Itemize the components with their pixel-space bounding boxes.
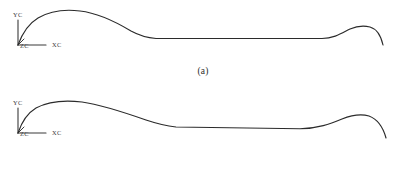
panel-b-plot: YC XC ZC bbox=[0, 87, 406, 175]
panel-a-x-axis-label: XC bbox=[52, 41, 61, 48]
panel-b-z-axis-label: ZC bbox=[20, 130, 29, 137]
panel-b-curve bbox=[18, 101, 386, 138]
panel-b: YC XC ZC (b) bbox=[0, 87, 406, 175]
panel-b-y-axis-label: YC bbox=[13, 99, 22, 106]
figure-container: YC XC ZC (a) YC XC ZC (b) bbox=[0, 0, 406, 175]
panel-a: YC XC ZC (a) bbox=[0, 0, 406, 88]
panel-a-y-axis-label: YC bbox=[13, 11, 22, 18]
panel-a-caption: (a) bbox=[0, 66, 406, 76]
panel-a-curve bbox=[18, 10, 383, 45]
panel-b-x-axis-label: XC bbox=[52, 129, 61, 136]
panel-a-z-axis-label: ZC bbox=[20, 42, 29, 49]
